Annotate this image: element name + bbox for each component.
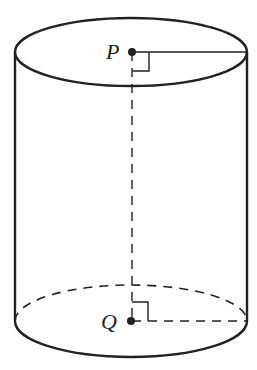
point-q-dot bbox=[127, 317, 135, 325]
bottom-back-arc-dashed bbox=[15, 285, 247, 321]
right-angle-mark-q bbox=[132, 302, 148, 321]
point-p-label: P bbox=[105, 39, 119, 64]
cylinder-diagram: P Q bbox=[0, 0, 257, 370]
point-q-label: Q bbox=[101, 309, 117, 334]
point-p-dot bbox=[128, 48, 136, 56]
bottom-front-arc bbox=[15, 321, 247, 357]
